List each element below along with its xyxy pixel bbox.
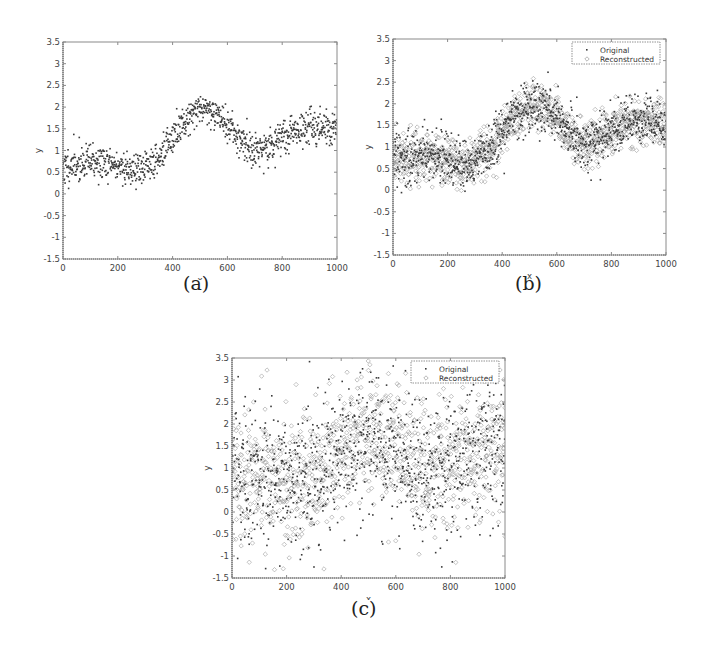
caption-b: (b) <box>515 272 542 294</box>
y-tick-label: -1.5 <box>373 250 390 260</box>
legend: OriginalReconstructed <box>411 361 499 383</box>
caption-c: (c) <box>351 597 376 619</box>
legend: OriginalReconstructed <box>572 42 660 64</box>
y-tick-label: 2.5 <box>46 80 60 90</box>
x-tick-label: 200 <box>110 263 126 273</box>
x-tick-label: 0 <box>390 259 395 269</box>
y-tick-label: 1.5 <box>46 124 60 134</box>
y-tick-label: -1 <box>52 232 60 242</box>
x-tick-label: 0 <box>229 582 234 592</box>
y-tick-label: 3 <box>385 56 390 66</box>
x-tick-label: 600 <box>549 259 565 269</box>
y-tick-label: 2 <box>385 99 390 109</box>
y-tick-label: 0.5 <box>46 167 60 177</box>
y-tick-label: -1.5 <box>43 254 60 264</box>
y-tick-label: 0 <box>55 189 60 199</box>
y-axis-label: y <box>363 144 373 150</box>
x-tick-label: 600 <box>388 582 404 592</box>
x-tick-label: 600 <box>219 263 235 273</box>
y-tick-label: 1.5 <box>376 120 390 130</box>
x-tick-label: 800 <box>603 259 619 269</box>
legend-label: Original <box>600 46 629 55</box>
panel-a: 02004006008001000-1.5-1-0.500.511.522.53… <box>0 0 350 320</box>
y-tick-label: 1.5 <box>215 441 229 451</box>
y-tick-label: 3 <box>224 375 229 385</box>
x-tick-label: 1000 <box>494 582 516 592</box>
y-tick-label: 0.5 <box>215 485 229 495</box>
y-tick-label: 3.5 <box>46 37 60 47</box>
y-tick-label: 3.5 <box>215 353 229 363</box>
x-tick-label: 400 <box>494 259 510 269</box>
x-tick-label: 400 <box>333 582 349 592</box>
x-tick-label: 800 <box>442 582 458 592</box>
y-tick-label: 0.5 <box>376 164 390 174</box>
y-tick-label: 0 <box>224 507 229 517</box>
x-tick-label: 1000 <box>326 263 348 273</box>
x-tick-label: 0 <box>60 263 65 273</box>
y-tick-label: 0 <box>385 185 390 195</box>
y-tick-label: 3 <box>55 59 60 69</box>
y-tick-label: 1 <box>224 463 229 473</box>
y-tick-label: 2.5 <box>376 77 390 87</box>
x-tick-label: 200 <box>439 259 455 269</box>
y-axis-label: y <box>202 465 212 471</box>
x-tick-label: 1000 <box>655 259 677 269</box>
y-tick-label: -0.5 <box>212 529 229 539</box>
y-tick-label: 2.5 <box>215 397 229 407</box>
scatter-points <box>62 96 338 190</box>
y-tick-label: -0.5 <box>43 211 60 221</box>
legend-label: Original <box>439 365 468 374</box>
legend-label: Reconstructed <box>439 374 493 383</box>
panel-c: 02004006008001000-1.5-1-0.500.511.522.53… <box>190 340 530 600</box>
x-tick-label: 400 <box>164 263 180 273</box>
y-tick-label: -0.5 <box>373 207 390 217</box>
scatter-points <box>391 71 668 193</box>
y-tick-label: -1 <box>382 228 390 238</box>
scatter-plot-b: 02004006008001000-1.5-1-0.500.511.522.53… <box>350 0 705 280</box>
x-tick-label: 800 <box>274 263 290 273</box>
y-tick-label: 1 <box>55 146 60 156</box>
legend-label: Reconstructed <box>600 55 654 64</box>
legend-dot-icon <box>425 368 427 370</box>
y-tick-label: -1 <box>221 551 229 561</box>
y-tick-label: -1.5 <box>212 573 229 583</box>
y-tick-label: 1 <box>385 142 390 152</box>
scatter-plot-c: 02004006008001000-1.5-1-0.500.511.522.53… <box>190 340 530 600</box>
y-axis-label: y <box>33 147 43 153</box>
y-tick-label: 2 <box>55 102 60 112</box>
x-tick-label: 200 <box>278 582 294 592</box>
y-tick-label: 2 <box>224 419 229 429</box>
legend-dot-icon <box>586 49 588 51</box>
y-tick-label: 3.5 <box>376 34 390 44</box>
caption-a: (a) <box>183 272 209 294</box>
scatter-plot-a: 02004006008001000-1.5-1-0.500.511.522.53… <box>0 0 350 280</box>
